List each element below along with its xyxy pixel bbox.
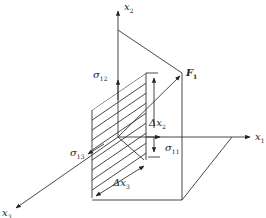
sigma13-label: σ13	[70, 148, 84, 160]
sigma11-label: σ11	[165, 143, 179, 155]
sigma12-label: σ12	[93, 70, 107, 82]
plane-top-edge	[118, 30, 182, 73]
dx3-label: Δx3	[113, 178, 130, 190]
hatched-element	[60, 50, 180, 218]
x2-axis-label: x2	[124, 2, 133, 14]
force-f1-label: F1	[186, 68, 197, 80]
x1-axis-label: x1	[255, 132, 264, 144]
x3-axis-label: x3	[2, 208, 11, 218]
plane-diagonal-edge	[182, 137, 232, 200]
element-diagonal	[118, 137, 144, 160]
stress-element-diagram	[0, 0, 266, 218]
dx2-label: Δx2	[149, 118, 166, 130]
